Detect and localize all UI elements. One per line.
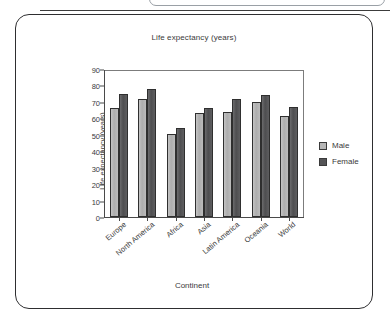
bar-group xyxy=(167,71,185,217)
bar-female xyxy=(232,99,241,217)
legend-item-female[interactable]: Female xyxy=(319,157,359,166)
bar-group xyxy=(223,71,241,217)
y-tick-mark xyxy=(100,218,104,219)
y-tick-mark xyxy=(100,135,104,136)
bar-female xyxy=(261,95,270,217)
chart-card: Life expectancy (years) Life expectancy … xyxy=(15,14,373,309)
bar-male xyxy=(280,116,289,217)
legend-swatch-icon xyxy=(319,158,327,166)
bar-male xyxy=(223,112,232,217)
x-tick-label-text: Oceania xyxy=(242,220,269,245)
x-tick-label: Africa xyxy=(163,218,189,268)
x-tick-label-text: Europe xyxy=(104,220,128,242)
x-tick-label-text: Africa xyxy=(164,220,184,239)
y-tick-mark xyxy=(100,201,104,202)
x-tick-label: World xyxy=(276,218,302,268)
y-tick-mark xyxy=(100,119,104,120)
legend-item-male[interactable]: Male xyxy=(319,141,359,150)
x-tick-label: North America xyxy=(134,218,160,268)
bar-group xyxy=(280,71,298,217)
x-tick-label: Oceania xyxy=(248,218,274,268)
bar-female xyxy=(289,107,298,217)
x-axis-tick-labels: EuropeNorth AmericaAfricaAsiaLatin Ameri… xyxy=(105,218,303,268)
bar-male xyxy=(110,108,119,217)
bar-male xyxy=(167,134,176,217)
x-axis-title: Continent xyxy=(72,281,312,290)
bar-group xyxy=(110,71,128,217)
bar-female xyxy=(204,108,213,217)
bar-female xyxy=(147,89,156,217)
bar-series-container xyxy=(105,71,303,217)
legend-label: Female xyxy=(332,157,359,166)
top-partial-card-edge xyxy=(149,0,385,6)
bar-male xyxy=(195,113,204,217)
y-tick-mark xyxy=(100,152,104,153)
bar-female xyxy=(176,128,185,217)
x-tick-label-text: Asia xyxy=(196,220,213,236)
bar-female xyxy=(119,94,128,217)
x-tick-label-text: World xyxy=(277,220,298,239)
x-tick-label: Latin America xyxy=(219,218,245,268)
chart-legend: MaleFemale xyxy=(319,141,359,166)
bar-group xyxy=(195,71,213,217)
y-tick-mark xyxy=(100,185,104,186)
y-tick-mark xyxy=(100,86,104,87)
legend-swatch-icon xyxy=(319,142,327,150)
plot-wrapper: Life expectancy (years) 9080706050403020… xyxy=(72,66,312,236)
y-tick-mark xyxy=(100,168,104,169)
bar-male xyxy=(138,99,147,217)
bar-group xyxy=(252,71,270,217)
chart-title: Life expectancy (years) xyxy=(16,33,372,42)
bar-male xyxy=(252,102,261,217)
bar-group xyxy=(138,71,156,217)
legend-label: Male xyxy=(332,141,349,150)
top-divider-rule xyxy=(40,10,390,11)
y-tick-mark xyxy=(100,70,104,71)
y-tick-mark xyxy=(100,102,104,103)
